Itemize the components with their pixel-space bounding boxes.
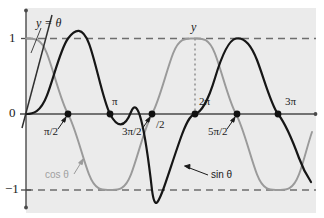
y-axis-label-one: 1 <box>9 31 16 44</box>
y-axis-top-dot <box>24 9 28 13</box>
tick-label-3pi-over-2: 3π/2 <box>122 126 142 137</box>
tick-label-pi: π <box>112 96 118 107</box>
tick-label-pi-over-2: π/2 <box>44 126 58 137</box>
trig-plot-svg <box>0 0 324 218</box>
tick-label-5pi-over-2: 5π/2 <box>208 126 228 137</box>
y-axis-bottom-dot <box>24 206 28 210</box>
annotation-y-equals-theta: y = θ <box>36 17 61 29</box>
marker-dot-5pi-over-2 <box>234 111 241 118</box>
marker-dot-pi <box>107 111 114 118</box>
annotation-sin-theta: sin θ <box>211 170 232 180</box>
y-axis-label-zero: 0 <box>9 106 16 119</box>
marker-dot-2pi <box>192 111 199 118</box>
y-axis-label-minus-one: −1 <box>5 182 19 195</box>
figure-canvas: 1 0 −1 y = θ y π/2 π 3π/2 /2 2π 5π/2 3π … <box>0 0 324 218</box>
tick-label-3pi-over-2-tail: /2 <box>156 119 165 130</box>
marker-dot-3pi-over-2 <box>149 111 156 118</box>
annotation-cos-theta: cos θ <box>45 170 69 180</box>
marker-dot-pi-over-2 <box>65 111 72 118</box>
x-axis-end-dot <box>314 112 318 116</box>
annotation-y: y <box>191 21 196 33</box>
tick-label-2pi: 2π <box>199 96 210 107</box>
marker-dot-3pi <box>275 111 282 118</box>
tick-label-3pi: 3π <box>285 96 296 107</box>
